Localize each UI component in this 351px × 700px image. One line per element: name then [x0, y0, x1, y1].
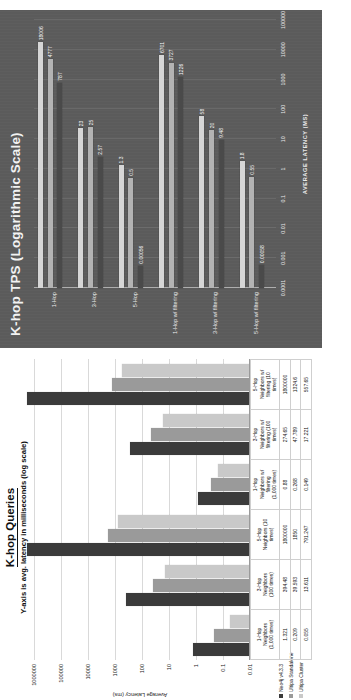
top-bar: 787	[57, 83, 62, 288]
top-bar-group: 5-Hop1.30.50.00056	[115, 20, 155, 288]
top-bar: 9.48	[219, 140, 224, 288]
data-table: 1-HopNeighbors(1,000 times)3-HopNeighbor…	[250, 359, 312, 660]
top-category-label: 5-Hop w/ filtering	[253, 292, 259, 334]
top-chart-x-tick-labels: 0.00010.0010.010.1110100100010000100000	[280, 20, 292, 288]
top-bar-value-label: 0.00058	[259, 245, 265, 263]
top-bar: 1226	[178, 77, 183, 288]
bottom-bar	[218, 464, 250, 477]
top-bar: 0.00058	[259, 265, 264, 288]
bottom-chart-y-tick-labels: 10000001000001000010001001010.10.01	[34, 662, 250, 696]
bottom-bar	[165, 565, 250, 578]
top-bar: 3727	[169, 63, 174, 288]
top-x-tick: 0.0001	[280, 280, 286, 297]
bottom-bar	[118, 515, 250, 528]
table-cell: 0.209	[290, 610, 301, 660]
top-x-tick: 1000	[280, 74, 286, 86]
top-x-tick: 10	[280, 136, 286, 142]
bottom-y-tick: 0.1	[220, 664, 226, 672]
top-x-tick: 0.01	[280, 223, 286, 234]
top-bar-value-label: 25	[88, 120, 94, 126]
table-cell: 39.593	[290, 560, 301, 610]
bottom-bar	[151, 428, 250, 441]
bottom-bar	[126, 593, 250, 606]
top-bar: 18006	[38, 42, 43, 288]
top-x-tick: 1	[280, 167, 286, 170]
bottom-bar-group	[34, 560, 250, 610]
top-bar-group: 5-Hop w/ filtering1.80.550.00058	[236, 20, 276, 288]
table-cell: 557.65	[301, 360, 312, 410]
top-bar-value-label: 4777	[47, 46, 53, 57]
legend-swatch	[299, 694, 303, 698]
bottom-chart-rotation-wrapper: K-hop Queries Y-axis is avg. latency in …	[0, 355, 348, 700]
table-row: 0.20939.59318500.26847.7891324.6	[290, 360, 301, 660]
bottom-bar	[163, 414, 250, 427]
top-bar: 0.5	[128, 178, 133, 288]
bottom-bar	[153, 579, 250, 592]
top-bar: 2.57	[98, 157, 103, 288]
top-category-label: 1-Hop	[51, 292, 57, 307]
top-bar-value-label: 1226	[178, 64, 184, 75]
top-bar: 0.55	[249, 177, 254, 288]
top-x-tick: 0.001	[280, 251, 286, 265]
bottom-bar	[112, 378, 250, 391]
khop-queries-chart: K-hop Queries Y-axis is avg. latency in …	[0, 355, 348, 700]
bottom-bar	[211, 478, 250, 491]
bottom-bar	[122, 364, 250, 377]
top-bar-value-label: 787	[57, 72, 63, 80]
legend-label: Ultipa Cluster	[298, 662, 304, 692]
table-cell: 13.611	[301, 560, 312, 610]
bottom-y-tick: 10000	[85, 664, 91, 680]
top-bar-value-label: 0.5	[128, 169, 134, 176]
table-cell: 17.221	[301, 410, 312, 460]
top-chart-x-axis-title: AVERAGE LATENCY (MS)	[302, 20, 308, 288]
table-column-header: 1-HopNeighbors(1,000 times)	[251, 610, 280, 660]
legend-swatch	[279, 694, 283, 698]
top-bar: 25	[88, 127, 93, 288]
top-bar: 0.00056	[138, 266, 143, 288]
bottom-bar	[130, 442, 250, 455]
bottom-bar	[27, 543, 250, 556]
top-category-label: 5-Hop	[132, 292, 138, 307]
bottom-y-tick: 1000000	[31, 664, 37, 686]
top-chart-plot-area: 1-Hop1800647777873-Hop23252.575-Hop1.30.…	[34, 20, 276, 288]
top-chart-rotation-wrapper: K-hop TPS (Logarithmic Scale) 1-Hop18006…	[0, 10, 322, 348]
bottom-y-tick: 1000	[112, 664, 118, 676]
table-column-header: 5-HopNeighbors w/filtering (10times)	[251, 360, 280, 410]
bottom-chart-data-table: 1-HopNeighbors(1,000 times)3-HopNeighbor…	[250, 359, 312, 660]
table-cell: 1324.6	[290, 360, 301, 410]
legend-swatch	[289, 694, 293, 698]
bottom-chart-title-text: K-hop Queries	[4, 488, 18, 567]
legend-label: Neo4j v4.3.3	[278, 664, 284, 692]
khop-tps-chart: K-hop TPS (Logarithmic Scale) 1-Hop18006…	[0, 10, 322, 348]
screenshot-root: K-hop TPS (Logarithmic Scale) 1-Hop18006…	[0, 0, 351, 700]
table-row: 0.05513.611791.2470.14917.221557.65	[301, 360, 312, 660]
top-bar-value-label: 9.48	[218, 128, 224, 138]
bottom-bar	[230, 615, 250, 628]
top-category-label: 3-Hop	[91, 292, 97, 307]
table-cell: 0.268	[290, 460, 301, 510]
top-bar-group: 1-Hop w/ filtering670137271226	[155, 20, 195, 288]
bottom-bar	[214, 629, 250, 642]
top-bar-value-label: 0.00056	[138, 246, 144, 264]
top-x-tick: 100	[280, 105, 286, 114]
top-bar: 1.8	[240, 161, 245, 288]
top-bar-value-label: 18006	[38, 26, 44, 40]
table-column-header: 1-HopNeighbors w/filtering(1,000 times)	[251, 460, 280, 510]
table-cell: 791.247	[301, 510, 312, 560]
table-cell: 1800000	[279, 360, 290, 410]
top-bar: 23	[78, 128, 83, 288]
bottom-bar	[108, 529, 250, 542]
table-cell: 0.055	[301, 610, 312, 660]
top-category-label: 3-Hop w/ filtering	[212, 292, 218, 334]
table-column-header: 3-HopNeighbors(100 times)	[251, 560, 280, 610]
top-bar-value-label: 58	[199, 109, 205, 115]
table-cell: 1850	[290, 510, 301, 560]
table-cell: 394.48	[279, 560, 290, 610]
bottom-y-tick: 1	[193, 664, 199, 667]
top-bar-group: 3-Hop w/ filtering58209.48	[195, 20, 235, 288]
table-column-header: 5-HopNeighbors (10times)	[251, 510, 280, 560]
bottom-bar-group	[34, 409, 250, 459]
bottom-chart-plot-area	[34, 359, 250, 660]
top-bar: 1.3	[119, 166, 124, 289]
top-bar-value-label: 1.8	[239, 152, 245, 159]
